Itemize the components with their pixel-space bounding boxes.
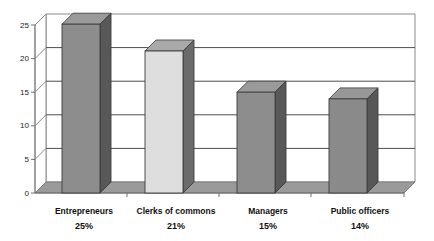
category-label-entrepreneurs: Entrepreneurs <box>55 206 113 216</box>
category-label-public-officers: Public officers <box>331 206 390 216</box>
category-label-managers: Managers <box>248 206 288 216</box>
bar-side-face <box>100 13 111 193</box>
category-value-public-officers: 14% <box>351 221 369 231</box>
bar-front-face <box>145 51 183 193</box>
bar-side-face <box>183 40 194 193</box>
bar-front-face <box>329 99 367 193</box>
bar-side-face <box>275 81 286 193</box>
y-tick-label-25: 25 <box>20 21 29 30</box>
category-label-clerks-of-commons: Clerks of commons <box>137 206 216 216</box>
bar-managers[interactable] <box>237 81 286 193</box>
plot-left-wall <box>35 14 46 193</box>
bar-side-face <box>367 88 378 193</box>
y-tick-label-20: 20 <box>20 54 29 63</box>
bar-front-face <box>62 24 100 193</box>
chart-container: 0 5 10 15 20 25 <box>0 0 434 241</box>
bar-chart-3d: 0 5 10 15 20 25 <box>0 0 434 241</box>
bar-front-face <box>237 92 275 193</box>
category-value-managers: 15% <box>259 221 277 231</box>
category-value-entrepreneurs: 25% <box>75 221 93 231</box>
category-value-clerks-of-commons: 21% <box>167 221 185 231</box>
y-tick-label-15: 15 <box>20 88 29 97</box>
y-tick-label-0: 0 <box>25 189 30 198</box>
bar-clerks-of-commons[interactable] <box>145 40 194 193</box>
bar-entrepreneurs[interactable] <box>62 13 111 193</box>
y-tick-label-10: 10 <box>20 121 29 130</box>
x-axis-ticks <box>127 193 404 197</box>
bar-public-officers[interactable] <box>329 88 378 193</box>
y-tick-label-5: 5 <box>25 155 30 164</box>
